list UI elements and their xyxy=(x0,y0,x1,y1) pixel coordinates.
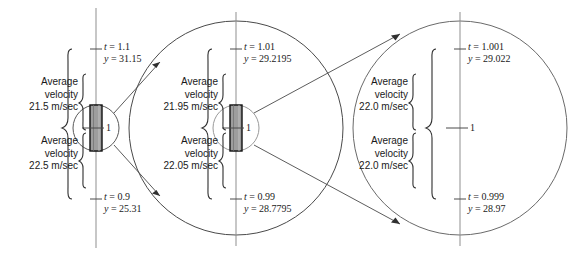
middle-lower-bracket-line1: Average xyxy=(144,135,218,148)
left-outer-brace xyxy=(62,49,72,199)
middle-upper-bracket-line1: Average xyxy=(144,76,218,89)
middle-top-y-label: y = 29.2195 xyxy=(244,53,292,65)
left-lower-bracket-line1: Average xyxy=(4,135,78,148)
right-lower-bracket-line1: Average xyxy=(334,135,408,148)
right-lower-bracket-line2: velocity xyxy=(334,148,408,161)
right-upper-brace xyxy=(409,74,416,130)
middle-upper-bracket-line2: velocity xyxy=(144,89,218,102)
left-lower-bracket-line2: velocity xyxy=(4,148,78,161)
connector-arrow-mr-lower-head xyxy=(391,218,400,225)
connector-arrow-lm-upper-head xyxy=(152,62,160,68)
left-upper-bracket-label: Average velocity 21.5 m/sec xyxy=(4,76,78,114)
right-upper-bracket-line1: Average xyxy=(334,76,408,89)
right-top-t-label: t = 1.001 xyxy=(468,41,504,53)
middle-lower-bracket-line3: 22.05 m/sec xyxy=(144,160,218,173)
left-upper-brace xyxy=(79,74,86,130)
right-center-tick-label: 1 xyxy=(470,122,475,134)
right-upper-bracket-label: Average velocity 22.0 m/sec xyxy=(334,76,408,114)
left-lower-bracket-line3: 22.5 m/sec xyxy=(4,160,78,173)
right-top-y-label: y = 29.022 xyxy=(468,53,511,65)
left-upper-bracket-line2: velocity xyxy=(4,89,78,102)
middle-center-tick-label: 1 xyxy=(246,122,251,134)
left-upper-bracket-line1: Average xyxy=(4,76,78,89)
right-upper-bracket-line2: velocity xyxy=(334,89,408,102)
right-lower-bracket-line3: 22.0 m/sec xyxy=(334,160,408,173)
right-bottom-t-label: t = 0.999 xyxy=(468,191,504,203)
right-upper-bracket-line3: 22.0 m/sec xyxy=(334,101,408,114)
left-center-tick-label: 1 xyxy=(106,122,111,134)
left-top-y-label: y = 31.15 xyxy=(104,53,142,65)
left-top-t-label: t = 1.1 xyxy=(104,41,130,53)
panel-middle-graphics xyxy=(129,12,343,246)
right-lower-bracket-label: Average velocity 22.0 m/sec xyxy=(334,135,408,173)
magnification-figure: t = 1.1 y = 31.15 t = 0.9 y = 25.31 1 Av… xyxy=(0,0,572,256)
left-lower-bracket-label: Average velocity 22.5 m/sec xyxy=(4,135,78,173)
left-upper-bracket-line3: 21.5 m/sec xyxy=(4,101,78,114)
figure-canvas xyxy=(0,0,572,256)
middle-lower-brace xyxy=(219,133,226,188)
middle-upper-bracket-label: Average velocity 21.95 m/sec xyxy=(144,76,218,114)
middle-lower-bracket-line2: velocity xyxy=(144,148,218,161)
right-lower-brace xyxy=(409,133,416,188)
left-lower-brace xyxy=(79,133,86,188)
right-bottom-y-label: y = 28.97 xyxy=(468,203,506,215)
connector-arrow-mr-upper-head xyxy=(391,34,400,41)
middle-bottom-y-label: y = 28.7795 xyxy=(244,203,292,215)
middle-outer-brace xyxy=(202,49,212,199)
middle-lower-bracket-label: Average velocity 22.05 m/sec xyxy=(144,135,218,173)
middle-top-t-label: t = 1.01 xyxy=(244,41,275,53)
middle-bottom-t-label: t = 0.99 xyxy=(244,191,275,203)
right-outer-brace xyxy=(426,49,436,199)
left-bottom-y-label: y = 25.31 xyxy=(104,203,142,215)
panel-right-graphics xyxy=(353,12,567,246)
middle-upper-brace xyxy=(219,74,226,130)
middle-upper-bracket-line3: 21.95 m/sec xyxy=(144,101,218,114)
left-bottom-t-label: t = 0.9 xyxy=(104,191,130,203)
